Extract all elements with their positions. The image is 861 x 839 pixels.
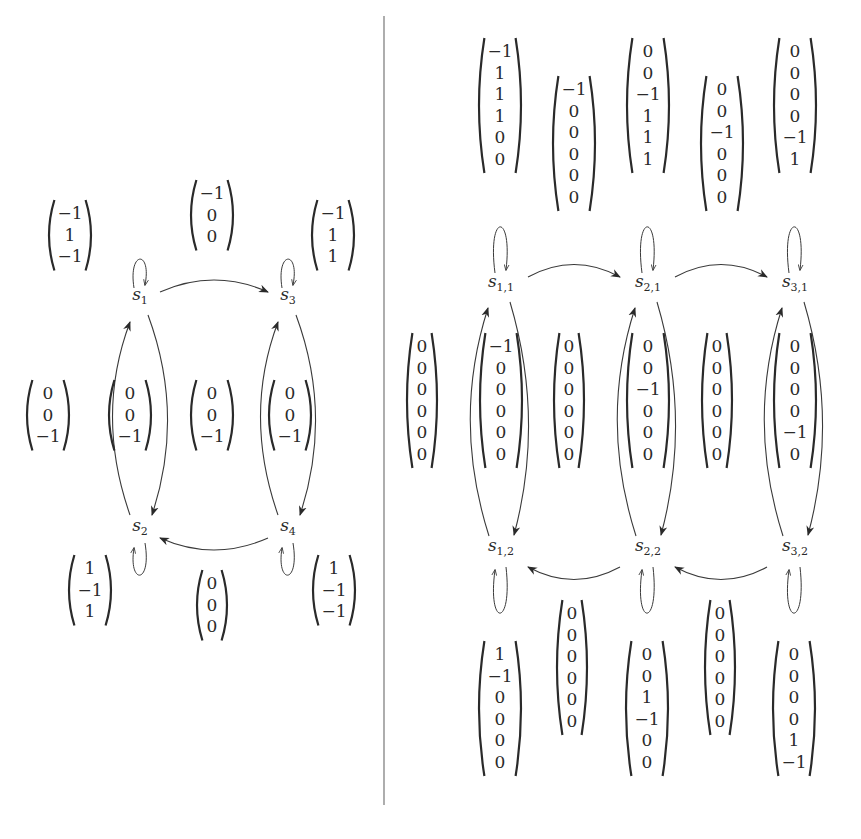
vector-entry: 0 <box>495 149 506 169</box>
vector-entry: 0 <box>643 336 654 356</box>
right-paren <box>582 600 587 735</box>
vector-entry: 1 <box>643 149 654 169</box>
vector-entry: 0 <box>569 101 580 121</box>
edge-s21-to-s31 <box>675 265 767 278</box>
vector-edges-s11-s12: −100000 <box>480 333 522 468</box>
vector-entry: 1 <box>643 127 654 147</box>
node-base: s <box>782 535 791 555</box>
vector-entry: −1 <box>321 601 346 621</box>
right-paren <box>349 200 354 271</box>
vector-entry: 0 <box>43 405 54 425</box>
vector-between-2-3: 000000 <box>702 333 732 468</box>
edge-s1-to-s3 <box>160 280 268 292</box>
right-paren <box>810 641 815 776</box>
edge-s11-to-s21 <box>528 265 620 278</box>
vector-entry: 0 <box>569 122 580 142</box>
node-s32: s3,2 <box>782 535 808 558</box>
left-paren <box>407 333 412 468</box>
left-paren <box>312 200 317 271</box>
vector-self-loop-s11: −111100 <box>479 38 521 173</box>
vector-entry: −1 <box>634 709 659 729</box>
node-subscript: 1 <box>141 294 148 307</box>
vector-entry: 0 <box>643 401 654 421</box>
node-base: s <box>488 271 497 291</box>
vector-between-1-2: 000000 <box>554 333 584 468</box>
vector-entry: 0 <box>643 41 654 61</box>
vector-entry: −1 <box>320 203 345 223</box>
vector-entry: 0 <box>43 383 54 403</box>
vector-entry: 0 <box>495 687 506 707</box>
right-paren <box>663 641 668 776</box>
vector-entry: 0 <box>790 379 801 399</box>
self-loop-s11 <box>493 227 507 273</box>
node-s11: s1,1 <box>488 271 514 294</box>
self-loop-s2 <box>133 543 146 575</box>
left-paren <box>480 333 485 468</box>
vector-entry: 1 <box>328 246 339 266</box>
vector-entry: 0 <box>567 711 578 731</box>
vector-entry: 1 <box>790 149 801 169</box>
vector-entry: 0 <box>207 573 218 593</box>
node-subscript: 2,1 <box>644 281 662 294</box>
vector-entry: 0 <box>207 226 218 246</box>
vector-self-loop-s32: 00001−1 <box>773 641 815 776</box>
vector-entry: 0 <box>712 444 723 464</box>
vector-entry: 0 <box>712 379 723 399</box>
right-graph-vectors: −111100−10000000−111100−10000000−1100000… <box>407 38 816 776</box>
vector-entry: 0 <box>790 84 801 104</box>
vector-edge-s21-s31: 00−1000 <box>701 76 743 211</box>
node-subscript: 4 <box>289 525 296 538</box>
vector-entry: 0 <box>715 689 726 709</box>
right-paren <box>811 333 816 468</box>
vector-entry: −1 <box>77 580 102 600</box>
node-subscript: 1,1 <box>497 281 515 294</box>
vector-entry: 0 <box>417 444 428 464</box>
vector-entry: 0 <box>717 101 728 121</box>
node-subscript: 2,2 <box>644 545 662 558</box>
right-paren <box>106 555 111 626</box>
vector-entry: −1 <box>117 426 142 446</box>
node-subscript: 1,2 <box>497 545 515 558</box>
right-paren <box>516 641 521 776</box>
vector-entry: 0 <box>790 444 801 464</box>
vector-entry: 0 <box>790 358 801 378</box>
right-paren <box>730 600 735 735</box>
edge-s32-to-s22 <box>675 567 767 580</box>
vector-entry: 0 <box>643 444 654 464</box>
vector-left-outer: 000000 <box>407 333 437 468</box>
right-paren <box>579 333 584 468</box>
vector-self-loop-s3: −111 <box>312 200 354 271</box>
right-paren <box>590 76 595 211</box>
vector-entry: 1 <box>642 687 653 707</box>
edge-s22-to-s12 <box>528 567 620 580</box>
right-paren <box>516 38 521 173</box>
vector-entry: 0 <box>789 666 800 686</box>
right-paren <box>306 380 311 451</box>
vector-entry: −1 <box>781 752 806 772</box>
node-s4: s4 <box>280 515 296 538</box>
vector-entry: 0 <box>569 144 580 164</box>
right-paren <box>811 38 816 173</box>
right-paren <box>727 333 732 468</box>
vector-entry: 0 <box>717 165 728 185</box>
vector-entry: −1 <box>487 666 512 686</box>
right-paren <box>228 380 233 451</box>
vector-entry: 0 <box>789 644 800 664</box>
vector-entry: −1 <box>782 422 807 442</box>
node-s3: s3 <box>280 284 296 307</box>
vector-edges-s1-s2: 00−1 <box>109 380 151 451</box>
right-paren <box>350 555 355 626</box>
self-loop-s31 <box>787 227 801 273</box>
vector-entry: 0 <box>715 711 726 731</box>
left-graph-vectors: −11−1−100−11100−100−100−100−11−110001−1−… <box>27 180 355 641</box>
vector-entry: 0 <box>789 687 800 707</box>
left-paren <box>479 38 484 173</box>
node-base: s <box>280 284 289 304</box>
vector-entry: 0 <box>790 41 801 61</box>
vector-edge-s1-s3: −100 <box>191 180 233 251</box>
vector-entry: 0 <box>717 79 728 99</box>
vector-entry: 0 <box>417 379 428 399</box>
vector-entry: 0 <box>712 336 723 356</box>
vector-entry: 0 <box>642 666 653 686</box>
vector-entry: 0 <box>564 422 575 442</box>
